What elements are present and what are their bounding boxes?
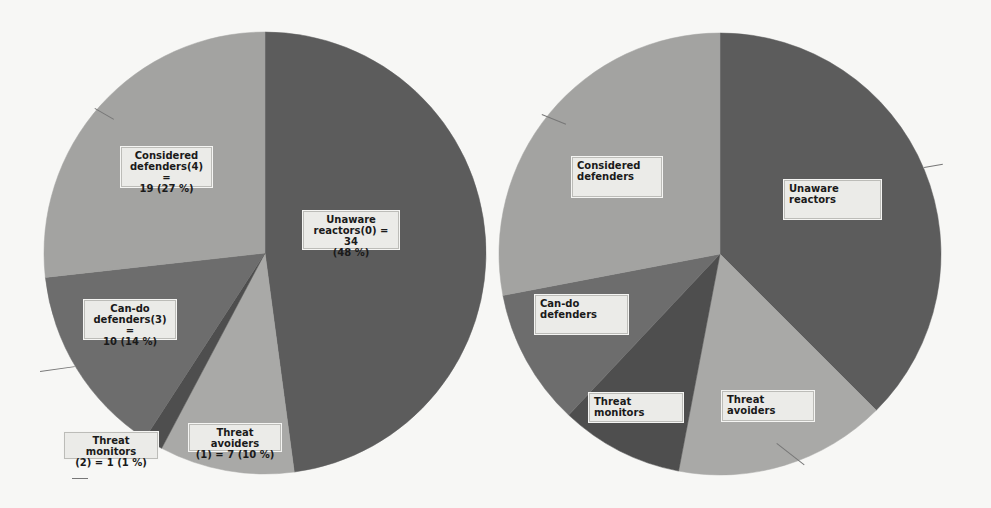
pie-right-svg <box>0 0 991 508</box>
slice-label-threat-monitors: Threat monitors <box>589 393 683 422</box>
pie-chart-right: Considered defenders Unaware reactors Ca… <box>0 0 991 508</box>
pie-right-slices <box>499 33 941 475</box>
slice-label-considered-defenders: Considered defenders <box>572 157 662 197</box>
slice-label-threat-avoiders: Threat avoiders <box>722 391 814 421</box>
slice-label-can-do-defenders: Can-do defenders <box>535 295 628 334</box>
slice-label-unaware-reactors: Unaware reactors <box>784 180 881 219</box>
